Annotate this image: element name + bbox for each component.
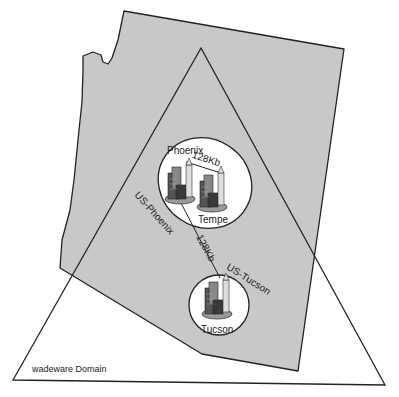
site-label-tempe: Tempe xyxy=(198,215,228,225)
diagram-canvas xyxy=(0,0,399,397)
site-label-tucson: Tucson xyxy=(201,325,233,335)
domain-label: wadeware Domain xyxy=(32,365,107,374)
network-diagram: Phoenix Tempe Tucson 128Kb 128Kb US-Phoe… xyxy=(0,0,399,397)
